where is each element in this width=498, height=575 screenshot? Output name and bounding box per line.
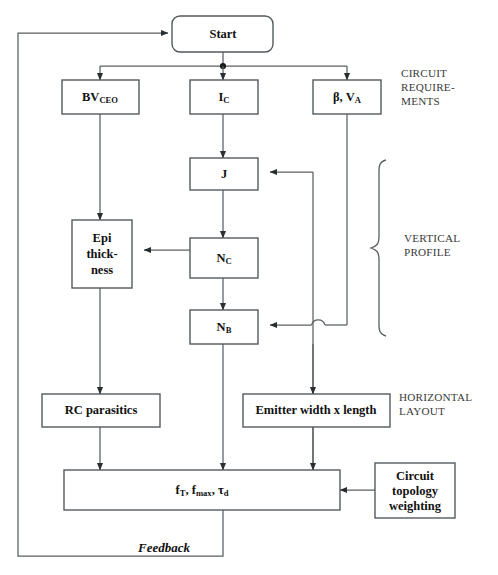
- label-epi-line1: Epi: [93, 231, 112, 245]
- label-j: J: [221, 167, 227, 181]
- side-label-circuit-requirements-1: CIRCUIT: [401, 67, 447, 79]
- side-label-circuit-requirements-3: MENTS: [401, 95, 440, 107]
- label-emitter: Emitter width x length: [256, 403, 377, 417]
- label-feedback: Feedback: [137, 540, 190, 555]
- label-epi-line3: ness: [91, 263, 113, 277]
- label-topology-line1: Circuit: [396, 469, 435, 483]
- label-epi-line2: thick-: [86, 247, 117, 261]
- side-label-vertical-profile-1: VERTICAL: [404, 232, 460, 244]
- vertical-profile-brace: [371, 160, 386, 336]
- label-topology-line2: topology: [392, 484, 439, 498]
- side-label-circuit-requirements-2: REQUIRE-: [401, 81, 455, 93]
- side-label-horizontal-layout-2: LAYOUT: [399, 405, 445, 417]
- label-rc-parasitics: RC parasitics: [65, 403, 138, 417]
- side-label-vertical-profile-2: PROFILE: [404, 246, 451, 258]
- label-topology-line3: weighting: [389, 499, 442, 513]
- flowchart-canvas: Start BVCEO IC β, VA J Epi thick- ness N…: [0, 0, 498, 575]
- side-label-horizontal-layout-1: HORIZONTAL: [399, 391, 472, 403]
- flowchart-diagram: Start BVCEO IC β, VA J Epi thick- ness N…: [0, 0, 498, 575]
- label-start: Start: [209, 27, 237, 41]
